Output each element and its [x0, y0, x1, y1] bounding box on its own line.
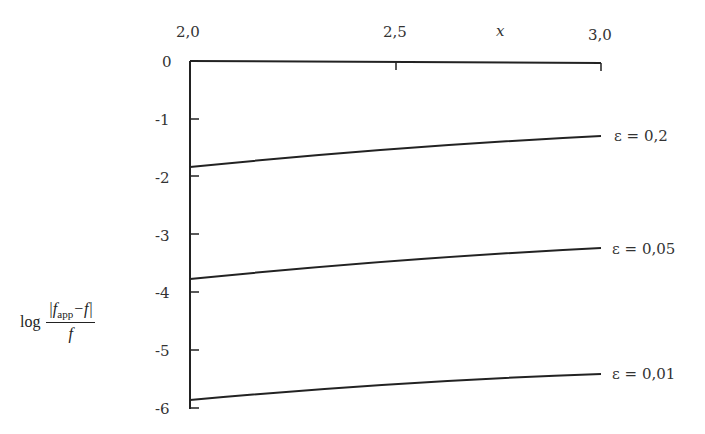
series-label-eps-0.05: ε = 0,05	[612, 240, 675, 258]
y-tick-label: -1	[155, 111, 170, 129]
y-axis-label: log |fapp−f| f	[20, 300, 95, 343]
x-tick-label: 3,0	[588, 26, 612, 44]
y-axis-log: log	[20, 313, 40, 331]
y-tick-label: -2	[155, 169, 170, 187]
y-tick-label: 0	[162, 53, 172, 71]
series-label-eps-0.01: ε = 0,01	[612, 365, 675, 383]
x-tick-label: 2,5	[383, 23, 407, 41]
chart: 2,0 2,5 3,0 x 0 -1 -2 -3 -4 -5 -6 ε = 0,…	[0, 0, 705, 434]
y-ticks	[190, 119, 199, 408]
series-line-eps-0.2	[190, 136, 601, 167]
series-line-eps-0.01	[190, 374, 601, 400]
series-label-eps-0.2: ε = 0,2	[614, 127, 668, 145]
y-tick-label: -6	[155, 400, 170, 418]
x-tick-label: 2,0	[176, 23, 200, 41]
y-axis-fraction: |fapp−f| f	[46, 300, 94, 343]
y-tick-label: -3	[155, 227, 170, 245]
y-axis-numerator: |fapp−f|	[46, 300, 94, 323]
y-axis-denominator: f	[68, 323, 72, 343]
x-axis-label: x	[496, 22, 505, 40]
y-tick-label: -5	[155, 342, 170, 360]
series-line-eps-0.05	[190, 248, 601, 279]
y-tick-label: -4	[155, 284, 170, 302]
